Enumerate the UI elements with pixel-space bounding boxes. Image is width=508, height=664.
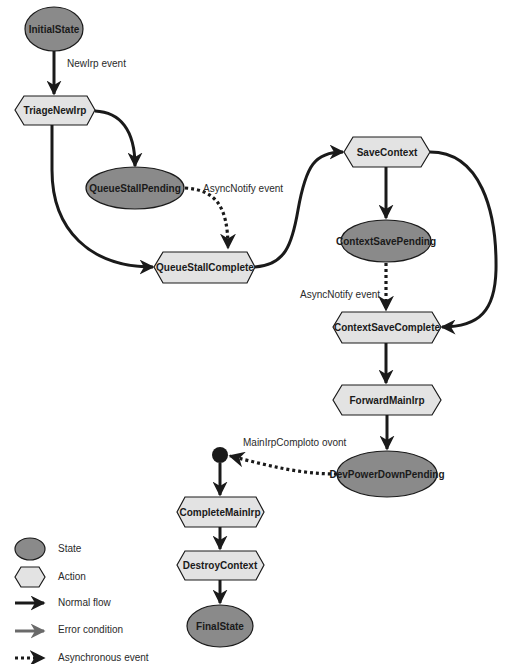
action-legend-icon xyxy=(15,567,45,587)
node-label: QueueStallComplete xyxy=(156,262,254,273)
node-label: CompleteMainIrp xyxy=(179,507,260,518)
node-label: DevPowerDownPending xyxy=(329,469,444,480)
node-dev-power-down-pending[interactable]: DevPowerDownPending xyxy=(329,451,444,497)
legend-item-async-event: Asynchronous event xyxy=(15,652,149,663)
state-legend-icon xyxy=(15,538,45,560)
node-label: ContextSaveComplete xyxy=(334,322,441,333)
node-context-save-pending[interactable]: ContextSavePending xyxy=(336,220,436,262)
node-triage-new-irp[interactable]: TriageNewIrp xyxy=(15,96,95,125)
edge-label-newirp-event: NewIrp event xyxy=(67,58,126,69)
junction-dot xyxy=(212,447,228,463)
edge-devpowerdown-to-junction xyxy=(230,456,337,474)
node-initial-state[interactable]: InitialState xyxy=(25,7,83,51)
node-forward-main-irp[interactable]: ForwardMainIrp xyxy=(333,385,441,415)
node-label: DestroyContext xyxy=(183,560,258,571)
node-label: ContextSavePending xyxy=(336,236,436,247)
node-save-context[interactable]: SaveContext xyxy=(344,137,430,167)
edge-triage-to-queuestallpending xyxy=(95,111,135,166)
legend-label: Error condition xyxy=(58,624,123,635)
legend-label: State xyxy=(58,543,82,554)
node-label: TriageNewIrp xyxy=(24,105,87,116)
node-queue-stall-complete[interactable]: QueueStallComplete xyxy=(154,252,255,283)
edge-label-asyncnotify-1: AsyncNotify event xyxy=(203,183,283,194)
node-label: FinalState xyxy=(196,621,244,632)
edge-queuestallcomplete-to-savecontext xyxy=(255,152,343,267)
node-complete-main-irp[interactable]: CompleteMainIrp xyxy=(177,497,264,527)
node-label: SaveContext xyxy=(357,147,418,158)
edge-savecontext-to-contextsavecomplete xyxy=(430,152,496,327)
legend-item-normal-flow: Normal flow xyxy=(15,597,112,608)
node-label: QueueStallPending xyxy=(89,183,181,194)
legend-label: Asynchronous event xyxy=(58,652,149,663)
node-label: ForwardMainIrp xyxy=(349,395,424,406)
legend-item-state: State xyxy=(15,538,82,560)
node-label: InitialState xyxy=(29,24,80,35)
edge-label-mainirpcomplete-event: MainIrpComploto ovont xyxy=(243,437,347,448)
node-destroy-context[interactable]: DestroyContext xyxy=(177,551,264,580)
legend-label: Normal flow xyxy=(58,597,112,608)
node-queue-stall-pending[interactable]: QueueStallPending xyxy=(86,167,184,209)
node-context-save-complete[interactable]: ContextSaveComplete xyxy=(333,312,441,343)
legend-label: Action xyxy=(58,571,86,582)
state-diagram: NewIrp event AsyncNotify event AsyncNoti… xyxy=(0,0,508,664)
edge-label-asyncnotify-2: AsyncNotify event xyxy=(300,289,380,300)
node-final-state[interactable]: FinalState xyxy=(187,605,253,647)
legend: State Action Normal flow Error condition… xyxy=(15,538,149,663)
legend-item-error-condition: Error condition xyxy=(15,624,123,635)
legend-item-action: Action xyxy=(15,567,86,587)
edge-queuestallpending-to-queuestallcomplete xyxy=(185,188,228,248)
